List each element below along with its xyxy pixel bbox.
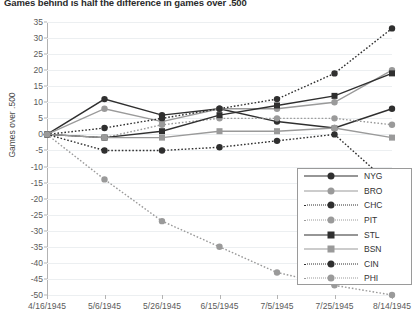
legend-label: CIN: [364, 259, 379, 269]
data-point: [389, 106, 395, 112]
data-point: [274, 269, 280, 275]
legend-swatch: [298, 228, 364, 242]
y-tick-label: -50: [3, 290, 43, 300]
legend-marker: [328, 246, 335, 253]
legend-item-chc[interactable]: CHC: [298, 198, 411, 213]
x-tick-label: 7/25/1945: [316, 301, 354, 311]
data-point: [216, 244, 222, 250]
data-point: [102, 135, 108, 141]
legend-label: PHI: [364, 273, 378, 283]
data-point: [44, 131, 50, 137]
legend-item-stl[interactable]: STL: [298, 227, 411, 242]
data-point: [101, 125, 107, 131]
data-point: [159, 122, 165, 128]
data-point: [101, 176, 107, 182]
data-point: [101, 106, 107, 112]
y-tick-label: -10: [3, 162, 43, 172]
series-bsn: [44, 125, 395, 141]
data-point: [389, 122, 395, 128]
data-point: [274, 103, 280, 109]
chart-title: Games behind is half the difference in g…: [4, 0, 414, 8]
legend-swatch: [298, 198, 364, 212]
data-point: [331, 115, 337, 121]
legend-swatch: [298, 257, 364, 271]
legend-label: NYG: [364, 171, 382, 181]
y-tick-label: -45: [3, 274, 43, 284]
y-tick-label: 0: [3, 129, 43, 139]
legend-marker: [328, 260, 335, 267]
y-tick-label: -5: [3, 145, 43, 155]
y-tick-label: -30: [3, 226, 43, 236]
legend-marker: [328, 217, 335, 224]
y-tick-label: -40: [3, 258, 43, 268]
legend-item-cin[interactable]: CIN: [298, 257, 411, 272]
data-point: [159, 147, 165, 153]
chart-container: Games behind is half the difference in g…: [0, 0, 416, 313]
data-point: [159, 115, 165, 121]
y-tick-label: -20: [3, 194, 43, 204]
legend-label: BSN: [364, 244, 381, 254]
x-tick-label: 8/14/1945: [373, 301, 411, 311]
data-point: [274, 96, 280, 102]
data-point: [101, 96, 107, 102]
y-tick-label: 35: [3, 17, 43, 27]
legend-marker: [328, 275, 335, 282]
data-point: [217, 112, 223, 118]
legend-swatch: [298, 184, 364, 198]
data-point: [389, 25, 395, 31]
x-tick-mark: [105, 295, 106, 299]
legend-swatch: [298, 213, 364, 227]
y-tick-label: 15: [3, 81, 43, 91]
y-tick-label: -35: [3, 242, 43, 252]
series-line: [47, 73, 392, 137]
data-point: [332, 93, 338, 99]
x-tick-label: 4/16/1945: [28, 301, 66, 311]
data-point: [331, 131, 337, 137]
data-point: [216, 106, 222, 112]
x-tick-mark: [47, 295, 48, 299]
x-tick-label: 7/5/1945: [260, 301, 293, 311]
legend-label: CHC: [364, 200, 382, 210]
y-tick-label: 20: [3, 65, 43, 75]
legend-marker: [328, 231, 335, 238]
x-tick-mark: [277, 295, 278, 299]
x-tick-mark: [162, 295, 163, 299]
data-point: [101, 147, 107, 153]
legend-label: STL: [364, 230, 380, 240]
data-point: [217, 128, 223, 134]
x-tick-label: 5/6/1945: [88, 301, 121, 311]
data-point: [159, 135, 165, 141]
legend-swatch: [298, 242, 364, 256]
y-tick-label: 25: [3, 49, 43, 59]
data-point: [389, 70, 395, 76]
data-point: [389, 135, 395, 141]
data-point: [159, 128, 165, 134]
data-point: [331, 99, 337, 105]
chart-legend: NYGBROCHCPITSTLBSNCINPHI: [297, 168, 412, 285]
legend-marker: [328, 202, 335, 209]
x-tick-mark: [335, 295, 336, 299]
series-bro: [44, 67, 395, 138]
data-point: [331, 70, 337, 76]
legend-swatch: [298, 271, 364, 285]
data-point: [159, 218, 165, 224]
legend-marker: [328, 187, 335, 194]
legend-item-pit[interactable]: PIT: [298, 213, 411, 228]
x-tick-label: 5/26/1945: [143, 301, 181, 311]
legend-item-bro[interactable]: BRO: [298, 184, 411, 199]
x-tick-mark: [220, 295, 221, 299]
data-point: [274, 128, 280, 134]
data-point: [332, 125, 338, 131]
data-point: [274, 115, 280, 121]
data-point: [216, 144, 222, 150]
x-tick-label: 6/15/1945: [201, 301, 239, 311]
legend-item-bsn[interactable]: BSN: [298, 242, 411, 257]
legend-label: BRO: [364, 186, 382, 196]
y-tick-label: 30: [3, 33, 43, 43]
data-point: [274, 138, 280, 144]
legend-label: PIT: [364, 215, 377, 225]
legend-item-nyg[interactable]: NYG: [298, 169, 411, 184]
legend-item-phi[interactable]: PHI: [298, 271, 411, 286]
legend-swatch: [298, 169, 364, 183]
y-tick-label: -25: [3, 210, 43, 220]
